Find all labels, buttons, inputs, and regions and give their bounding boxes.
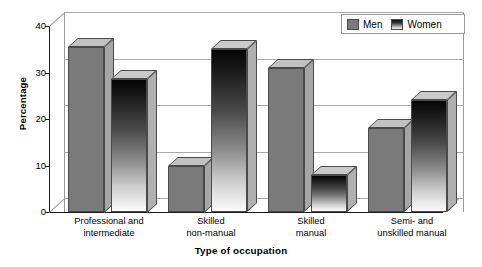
bar-front-face xyxy=(111,79,147,213)
legend-swatch-women-icon xyxy=(391,19,403,30)
legend-swatch-men-icon xyxy=(347,19,359,30)
x-axis-title: Type of occupation xyxy=(0,245,482,256)
legend-label-men: Men xyxy=(363,19,382,30)
bar-front-face xyxy=(211,49,247,212)
bar-women-semi-and-unskilled-manual xyxy=(411,100,447,212)
bar-men-professional-and-intermediate xyxy=(68,47,104,213)
bar-side-face xyxy=(247,40,257,212)
bar-women-professional-and-intermediate xyxy=(111,79,147,213)
bar-side-face xyxy=(147,69,157,212)
x-category-label-3-line-1: unskilled manual xyxy=(345,228,479,240)
legend-item-women: Women xyxy=(391,19,441,30)
bar-men-semi-and-unskilled-manual xyxy=(368,128,404,212)
bar-women-skilled-non-manual xyxy=(211,49,247,212)
bar-men-skilled-non-manual xyxy=(168,166,204,213)
bar-side-face xyxy=(447,91,457,212)
bar-men-skilled-manual xyxy=(268,68,304,212)
x-category-label-3-line-0: Semi- and xyxy=(345,216,479,228)
legend-item-men: Men xyxy=(347,19,382,30)
bar-chart: Percentage 0 10 20 30 40 xyxy=(0,0,482,267)
legend-label-women: Women xyxy=(407,19,441,30)
chart-legend: Men Women xyxy=(341,14,465,34)
bar-front-face xyxy=(68,47,104,213)
bar-women-skilled-manual xyxy=(311,175,347,212)
x-category-label-3: Semi- and unskilled manual xyxy=(345,216,479,239)
bar-front-face xyxy=(268,68,304,212)
bar-front-face xyxy=(168,166,204,213)
bar-front-face xyxy=(411,100,447,212)
bar-side-face xyxy=(347,166,357,212)
bar-front-face xyxy=(311,175,347,212)
bar-front-face xyxy=(368,128,404,212)
